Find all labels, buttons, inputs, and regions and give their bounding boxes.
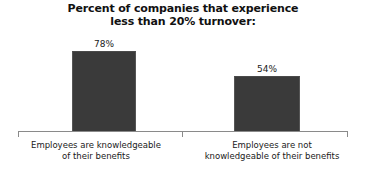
category-label-1: Employees are knowledgeable of their ben… xyxy=(14,140,178,162)
chart-title: Percent of companies that experience les… xyxy=(0,3,366,28)
bar-chart: Percent of companies that experience les… xyxy=(0,0,366,175)
chart-title-line-1: Percent of companies that experience xyxy=(0,3,366,16)
category-label-2-line-2: knowledgeable of their benefits xyxy=(186,151,358,162)
bar-value-label-1: 78% xyxy=(72,39,136,49)
bar-value-label-2: 54% xyxy=(234,64,300,74)
category-label-1-line-1: Employees are knowledgeable xyxy=(14,140,178,151)
x-axis-line xyxy=(18,131,348,132)
category-label-2: Employees are not knowledgeable of their… xyxy=(186,140,358,162)
bar-employees-knowledgeable xyxy=(72,51,136,132)
category-label-1-line-2: of their benefits xyxy=(14,151,178,162)
x-axis-tick-left xyxy=(18,132,19,137)
plot-area: 78% 54% xyxy=(0,28,366,132)
x-axis-tick-right xyxy=(347,132,348,137)
bar-employees-not-knowledgeable xyxy=(234,76,300,132)
chart-title-line-2: less than 20% turnover: xyxy=(0,16,366,29)
category-label-2-line-1: Employees are not xyxy=(186,140,358,151)
x-axis-tick-center xyxy=(182,132,183,137)
